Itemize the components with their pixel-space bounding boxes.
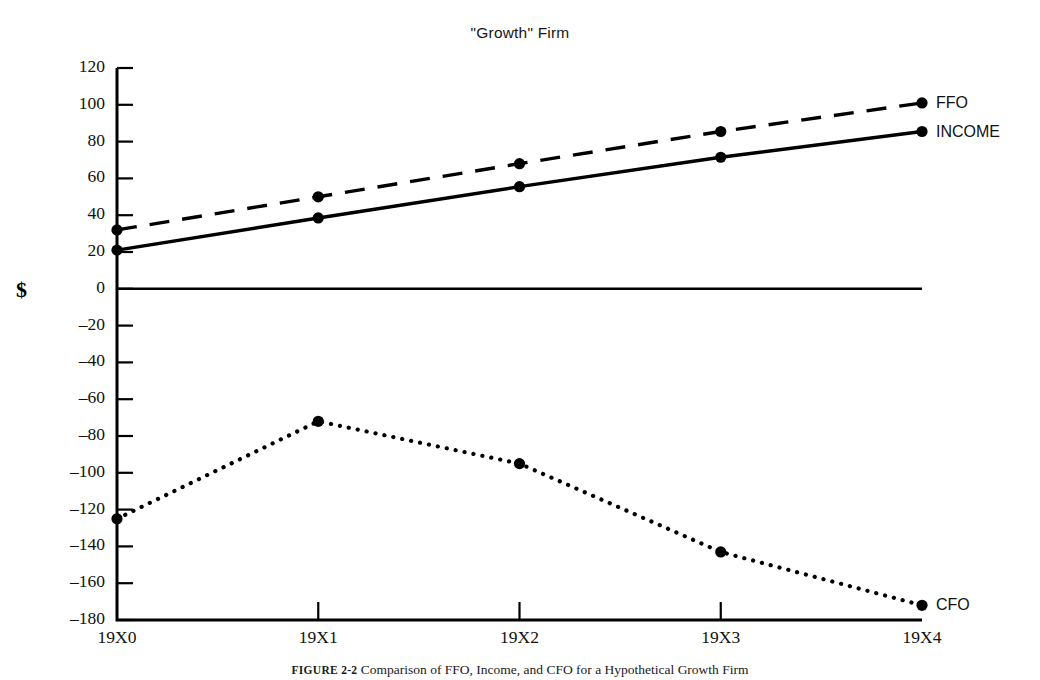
data-point-income bbox=[514, 181, 525, 192]
data-point-income bbox=[715, 152, 726, 163]
data-point-income bbox=[111, 245, 122, 256]
series-line-cfo bbox=[117, 421, 922, 605]
x-tick-label: 19X0 bbox=[98, 627, 137, 647]
x-tick-label: 19X2 bbox=[500, 627, 539, 647]
y-tick-label: –40 bbox=[78, 350, 106, 370]
data-point-cfo bbox=[514, 458, 525, 469]
series-labels-group: FFOINCOMECFO bbox=[936, 94, 1000, 613]
y-tick-label: –160 bbox=[69, 571, 105, 591]
data-series-group bbox=[111, 97, 927, 611]
x-axis-ticks: 19X019X119X219X319X4 bbox=[98, 602, 942, 647]
y-tick-label: 100 bbox=[79, 93, 106, 113]
x-tick-label: 19X3 bbox=[701, 627, 740, 647]
y-tick-label: 80 bbox=[88, 130, 106, 150]
line-chart-plot: 120100806040200–20–40–60–80–100–120–140–… bbox=[0, 0, 1040, 680]
data-point-income bbox=[916, 126, 927, 137]
y-tick-label: –20 bbox=[78, 314, 106, 334]
x-tick-label: 19X1 bbox=[299, 627, 338, 647]
data-point-cfo bbox=[313, 416, 324, 427]
axis-frame bbox=[117, 68, 922, 620]
data-point-ffo bbox=[111, 224, 122, 235]
series-label-cfo: CFO bbox=[936, 596, 970, 613]
figure-container: "Growth" Firm $ 120100806040200–20–40–60… bbox=[0, 0, 1040, 680]
y-tick-label: 60 bbox=[88, 166, 106, 186]
y-tick-label: –60 bbox=[78, 387, 106, 407]
data-point-ffo bbox=[715, 126, 726, 137]
data-point-cfo bbox=[715, 546, 726, 557]
y-tick-label: –80 bbox=[78, 424, 106, 444]
figure-caption-number: FIGURE 2-2 bbox=[291, 664, 357, 676]
data-point-ffo bbox=[514, 158, 525, 169]
y-tick-label: –180 bbox=[69, 608, 105, 628]
y-tick-label: 20 bbox=[88, 240, 106, 260]
y-tick-label: –100 bbox=[69, 461, 105, 481]
figure-caption-text: Comparison of FFO, Income, and CFO for a… bbox=[361, 662, 749, 677]
series-label-income: INCOME bbox=[936, 123, 1000, 140]
data-point-ffo bbox=[313, 191, 324, 202]
figure-caption: FIGURE 2-2 Comparison of FFO, Income, an… bbox=[0, 662, 1040, 678]
data-point-cfo bbox=[916, 600, 927, 611]
y-tick-label: 0 bbox=[96, 277, 105, 297]
y-tick-label: –140 bbox=[69, 534, 105, 554]
y-tick-label: 120 bbox=[79, 56, 106, 76]
data-point-cfo bbox=[111, 513, 122, 524]
y-tick-label: 40 bbox=[88, 203, 106, 223]
y-axis-ticks: 120100806040200–20–40–60–80–100–120–140–… bbox=[69, 56, 133, 628]
x-tick-label: 19X4 bbox=[903, 627, 942, 647]
data-point-income bbox=[313, 212, 324, 223]
y-tick-label: –120 bbox=[69, 498, 105, 518]
series-label-ffo: FFO bbox=[936, 94, 968, 111]
data-point-ffo bbox=[916, 97, 927, 108]
